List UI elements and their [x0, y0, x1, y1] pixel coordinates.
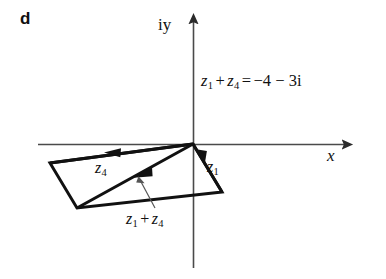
iy-axis-label: iy — [158, 16, 171, 33]
sum-z1-base: z — [126, 210, 132, 227]
vector-z1-label: z1 — [207, 159, 219, 177]
equation-z1-sub: 1 — [208, 80, 213, 91]
x-axis-label: x — [327, 147, 335, 164]
vector-z4-label: z4 — [95, 160, 107, 178]
sum-z1-sub: 1 — [133, 218, 138, 229]
equation-rhs: −4 − 3i — [254, 71, 302, 90]
vector-sum-label: z1+z4 — [126, 211, 164, 229]
equation-plus: + — [215, 71, 224, 90]
vector-z4-shaft — [50, 144, 193, 163]
vector-diagram-svg — [0, 0, 386, 279]
sum-z4-sub: 4 — [158, 218, 163, 229]
z1-base: z — [207, 158, 213, 175]
equation-annotation: z1+z4=−4 − 3i — [201, 73, 302, 91]
z4-base: z — [95, 159, 101, 176]
z4-sub: 4 — [102, 167, 107, 178]
equation-z4-sub: 4 — [234, 80, 239, 91]
z1-sub: 1 — [214, 166, 219, 177]
equation-z4-base: z — [227, 71, 233, 90]
sum-plus: + — [140, 210, 149, 227]
equation-z1-base: z — [201, 71, 207, 90]
panel-label-d: d — [20, 10, 30, 27]
vector-sum-arrowhead — [134, 166, 153, 177]
equation-equals: = — [242, 71, 251, 90]
complex-plane-figure: d iy x z1+z4=−4 − 3i z4 z1 z1+z4 — [0, 0, 386, 279]
sum-label-leader-line — [140, 179, 156, 208]
